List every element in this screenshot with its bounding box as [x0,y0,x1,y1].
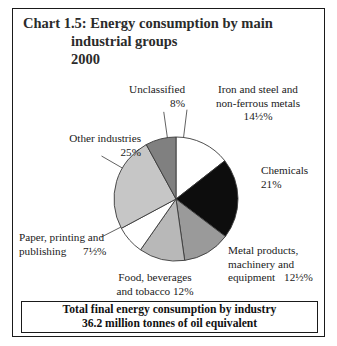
slice-label-other-name: Other industries [23,132,141,146]
slice-label-metal-value: 12½% [278,271,313,283]
slice-label-other-industries: Other industries 25% [23,132,141,159]
pie-leader-line [164,112,168,138]
slice-label-metal-line2: machinery and [228,258,328,272]
pie-leader-line [184,110,187,138]
slice-label-unclassified-name: Unclassified [101,83,185,97]
slice-label-chemicals-name: Chemicals [261,164,331,178]
pie-slice [146,137,176,199]
pie-slice [176,161,238,237]
slice-label-metal-line3: equipment 12½% [228,271,328,285]
pie-slice [176,137,225,199]
slice-label-paper-line2: publishing 7½% [19,245,151,259]
chart-title: Chart 1.5: Energy consumption by main in… [13,14,326,68]
slice-label-unclassified: Unclassified 8% [101,83,185,110]
pie-slice [176,199,225,260]
slice-label-metal-products: Metal products, machinery and equipment … [228,244,328,285]
slice-label-paper-line2-text: publishing [19,245,66,259]
slice-label-paper-printing: Paper, printing and publishing 7½% [19,231,151,258]
chart-footer: Total final energy consumption by indust… [21,301,318,333]
title-line-1: Chart 1.5: Energy consumption by main [13,14,326,32]
title-line-3: 2000 [13,50,326,68]
slice-label-chemicals: Chemicals 21% [261,164,331,191]
slice-label-metal-line1: Metal products, [228,244,328,258]
slice-label-food-beverages: Food, beverages and tobacco 12% [91,271,219,298]
footer-line-1: Total final energy consumption by indust… [63,303,277,317]
slice-label-metal-line3-text: equipment [228,271,275,285]
slice-label-chemicals-value: 21% [261,178,331,192]
footer-line-2: 36.2 million tonnes of oil equivalent [82,317,257,331]
slice-label-food-line2: and tobacco 12% [91,285,219,299]
slice-label-iron-and-steel: Iron and steel and non-ferrous metals 14… [195,83,321,124]
title-line-2: industrial groups [13,32,326,50]
slice-label-paper-line1: Paper, printing and [19,231,151,245]
slice-label-paper-value: 7½% [69,245,106,257]
slice-label-food-line1: Food, beverages [91,271,219,285]
slice-label-iron-line1: Iron and steel and [195,83,321,97]
slice-label-other-value: 25% [23,146,141,160]
pie-leader-lines [101,110,187,237]
slice-label-iron-line2: non-ferrous metals [195,97,321,111]
chart-frame: Chart 1.5: Energy consumption by main in… [12,8,325,337]
slice-label-iron-value: 14½% [195,110,321,124]
slice-label-unclassified-value: 8% [101,97,185,111]
